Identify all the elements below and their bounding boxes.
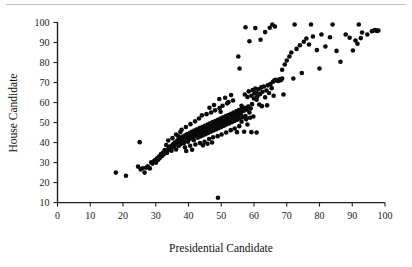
x-tick-label: 0 bbox=[55, 210, 60, 221]
data-point bbox=[289, 50, 294, 55]
data-point bbox=[300, 71, 305, 76]
x-tick-label: 100 bbox=[378, 210, 393, 221]
data-point bbox=[170, 136, 175, 141]
data-point bbox=[148, 166, 153, 171]
x-tick-label: 40 bbox=[184, 210, 194, 221]
data-point bbox=[280, 76, 285, 81]
data-point bbox=[291, 76, 296, 81]
data-point bbox=[323, 44, 328, 49]
data-point bbox=[257, 102, 262, 107]
scatter-chart-svg: 102030405060708090100 010203040506070809… bbox=[0, 0, 412, 267]
data-point bbox=[315, 48, 320, 53]
data-point bbox=[220, 103, 225, 108]
y-axis-title: House Candidate bbox=[7, 74, 19, 153]
data-point bbox=[269, 86, 274, 91]
data-point bbox=[254, 130, 259, 135]
x-tick-label: 50 bbox=[216, 210, 226, 221]
data-point bbox=[226, 100, 231, 105]
data-point bbox=[188, 143, 193, 148]
x-tick-label: 90 bbox=[347, 210, 357, 221]
data-point bbox=[218, 109, 223, 114]
x-axis-tick-labels: 0102030405060708090100 bbox=[55, 210, 393, 221]
data-point bbox=[280, 67, 285, 72]
data-point bbox=[247, 39, 252, 44]
y-axis-tick-labels: 102030405060708090100 bbox=[35, 17, 50, 208]
data-point bbox=[258, 37, 263, 42]
y-tick-label: 70 bbox=[40, 77, 50, 88]
data-point bbox=[197, 116, 202, 121]
scatter-plot-figure: 102030405060708090100 010203040506070809… bbox=[0, 0, 412, 267]
data-point bbox=[205, 141, 210, 146]
data-point bbox=[201, 143, 206, 148]
data-point bbox=[317, 66, 322, 71]
data-point bbox=[210, 140, 215, 145]
data-point bbox=[260, 89, 265, 94]
data-point bbox=[263, 30, 268, 35]
data-point bbox=[262, 84, 267, 89]
data-point bbox=[188, 122, 193, 127]
data-point bbox=[237, 66, 242, 71]
data-point bbox=[229, 93, 234, 98]
data-point bbox=[217, 97, 222, 102]
data-point bbox=[213, 108, 218, 113]
data-point bbox=[376, 28, 381, 33]
data-point bbox=[209, 110, 214, 115]
data-point bbox=[239, 119, 244, 124]
data-point bbox=[124, 173, 129, 178]
x-tick-label: 80 bbox=[315, 210, 325, 221]
y-tick-label: 30 bbox=[40, 157, 50, 168]
data-point bbox=[365, 32, 370, 37]
data-point bbox=[360, 30, 365, 35]
data-point bbox=[244, 117, 249, 122]
data-point bbox=[179, 127, 184, 132]
data-point bbox=[212, 103, 217, 108]
data-point bbox=[334, 49, 339, 54]
data-point bbox=[294, 47, 299, 52]
data-point bbox=[319, 32, 324, 37]
y-tick-label: 80 bbox=[40, 57, 50, 68]
y-tick-label: 10 bbox=[40, 197, 50, 208]
data-point bbox=[249, 130, 254, 135]
data-point bbox=[166, 138, 171, 143]
data-point bbox=[311, 34, 316, 39]
data-point bbox=[247, 110, 252, 115]
data-point bbox=[282, 62, 287, 67]
data-point bbox=[284, 58, 289, 63]
x-axis-title: Presidential Candidate bbox=[169, 242, 273, 254]
x-tick-label: 60 bbox=[249, 210, 259, 221]
data-point bbox=[250, 102, 255, 107]
data-point bbox=[191, 138, 196, 143]
data-point bbox=[114, 170, 119, 175]
data-point bbox=[204, 112, 209, 117]
data-point bbox=[273, 24, 278, 29]
data-point bbox=[223, 95, 228, 100]
data-point bbox=[347, 35, 352, 40]
data-point bbox=[271, 93, 276, 98]
data-point bbox=[193, 119, 198, 124]
x-tick-label: 20 bbox=[118, 210, 128, 221]
data-point bbox=[267, 91, 272, 96]
data-point bbox=[328, 35, 333, 40]
data-point bbox=[298, 43, 303, 48]
y-tick-label: 50 bbox=[40, 117, 50, 128]
data-point bbox=[137, 140, 142, 145]
data-point bbox=[207, 137, 212, 142]
data-point bbox=[242, 129, 247, 134]
y-tick-label: 90 bbox=[40, 37, 50, 48]
data-point bbox=[304, 36, 309, 41]
data-point bbox=[207, 105, 212, 110]
data-point bbox=[184, 125, 189, 130]
data-point bbox=[237, 124, 242, 129]
x-tick-label: 70 bbox=[282, 210, 292, 221]
data-point bbox=[219, 132, 224, 137]
y-tick-label: 60 bbox=[40, 97, 50, 108]
data-point bbox=[338, 59, 343, 64]
data-point bbox=[224, 130, 229, 135]
data-point bbox=[231, 98, 236, 103]
x-tick-label: 30 bbox=[151, 210, 161, 221]
data-point bbox=[245, 95, 250, 100]
data-point bbox=[248, 106, 253, 111]
data-point bbox=[243, 25, 248, 30]
data-point bbox=[216, 196, 221, 201]
data-point bbox=[215, 134, 220, 139]
